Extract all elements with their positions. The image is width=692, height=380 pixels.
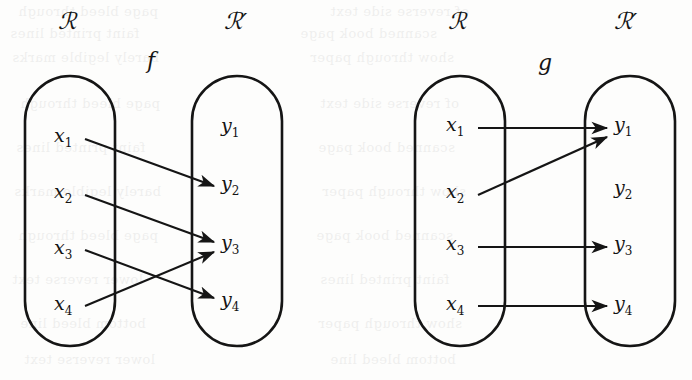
function-label-f: f [147, 48, 155, 73]
set-label-codomain-f: ℛ′ [224, 8, 247, 34]
diagram-vectors [0, 0, 692, 380]
element-g-y1: y1 [614, 113, 632, 139]
element-f-y2: y2 [221, 172, 239, 198]
element-g-y3: y3 [614, 232, 632, 258]
element-f-x3: x3 [54, 236, 72, 262]
element-f-x2: x2 [54, 180, 72, 206]
element-f-x4: x4 [54, 292, 72, 318]
element-g-y4: y4 [614, 292, 632, 318]
element-f-x1: x1 [54, 124, 72, 150]
element-g-x3: x3 [446, 232, 464, 258]
element-f-y4: y4 [221, 288, 239, 314]
element-g-y2: y2 [614, 176, 632, 202]
element-g-x4: x4 [446, 292, 464, 318]
element-f-y1: y1 [221, 114, 239, 140]
set-label-domain-f: ℛ [58, 8, 76, 34]
arrow-f-x1-y2 [85, 139, 214, 186]
figure-canvas: page bleed through of reverse side text … [0, 0, 692, 380]
arrow-f-x2-y3 [85, 195, 214, 242]
function-label-g: g [538, 50, 552, 75]
arrow-f-x4-y3 [85, 252, 214, 306]
element-g-x1: x1 [446, 113, 464, 139]
element-f-y3: y3 [221, 231, 239, 257]
set-label-codomain-g: ℛ′ [614, 8, 637, 34]
element-g-x2: x2 [446, 180, 464, 206]
set-label-domain-g: ℛ [448, 8, 466, 34]
arrow-f-x3-y4 [85, 250, 214, 298]
arrow-g-x2-y1 [478, 137, 607, 195]
